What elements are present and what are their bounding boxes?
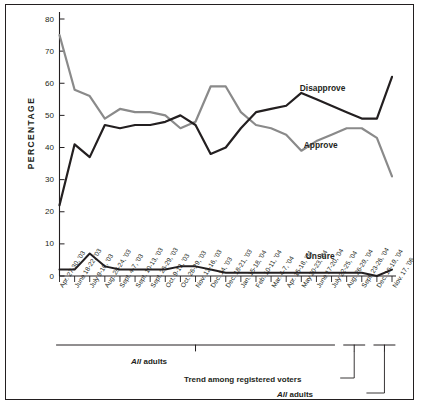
leader-line	[340, 351, 354, 378]
axis-ticks	[60, 19, 393, 282]
series-label-unsure: Unsure	[306, 251, 335, 261]
annotation-all-adults-left: All adults	[131, 357, 167, 366]
annotation-all-adults-left-italic: All	[131, 357, 141, 366]
bracket	[57, 345, 335, 351]
bracket	[374, 345, 395, 351]
data-series-lines	[60, 35, 393, 276]
group-brackets	[57, 345, 396, 351]
series-label-disapprove: Disapprove	[300, 83, 346, 93]
y-tick-label: 40	[32, 143, 54, 152]
annotation-all-adults-right-italic: All	[277, 390, 287, 399]
y-tick-label: 30	[32, 175, 54, 184]
annotation-registered-voters-text: Trend among registered voters	[184, 375, 301, 384]
bracket	[344, 345, 365, 351]
series-line-disapprove	[60, 77, 393, 206]
y-tick-label: 70	[32, 47, 54, 56]
y-tick-label: 10	[32, 239, 54, 248]
y-tick-label: 50	[32, 111, 54, 120]
annotation-leader-lines	[340, 351, 384, 393]
annotation-all-adults-left-rest: adults	[141, 357, 167, 366]
annotation-registered-voters: Trend among registered voters	[184, 375, 301, 384]
series-label-approve: Approve	[304, 140, 338, 150]
y-tick-label: 60	[32, 79, 54, 88]
leader-line	[366, 351, 384, 393]
y-tick-label: 0	[32, 272, 54, 281]
chart-figure: PERCENTAGE 01020304050607080 Apr. 27-30,…	[0, 0, 423, 412]
chart-plot-area	[0, 0, 423, 412]
y-tick-label: 20	[32, 207, 54, 216]
annotation-all-adults-right-rest: adults	[287, 390, 313, 399]
series-line-approve	[60, 35, 393, 176]
y-tick-label: 80	[32, 15, 54, 24]
annotation-all-adults-right: All adults	[277, 390, 313, 399]
